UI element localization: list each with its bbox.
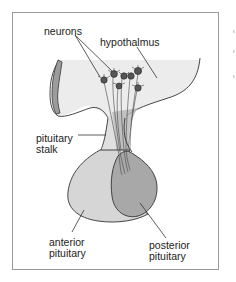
label-hypothalamus: hypothalmus: [100, 37, 160, 48]
hypothalamus-region: [56, 60, 200, 118]
label-posterior-pituitary: posterior pituitary: [149, 240, 190, 262]
label-stalk-line2: stalk: [36, 144, 73, 155]
stalk-shade: [112, 108, 138, 150]
posterior-pituitary: [111, 151, 157, 216]
label-neurons: neurons: [44, 26, 82, 37]
label-posterior-line2: pituitary: [149, 251, 190, 262]
label-anterior-pituitary: anterior pituitary: [49, 237, 86, 259]
label-pituitary-stalk: pituitary stalk: [36, 133, 73, 155]
label-anterior-line2: pituitary: [49, 248, 86, 259]
